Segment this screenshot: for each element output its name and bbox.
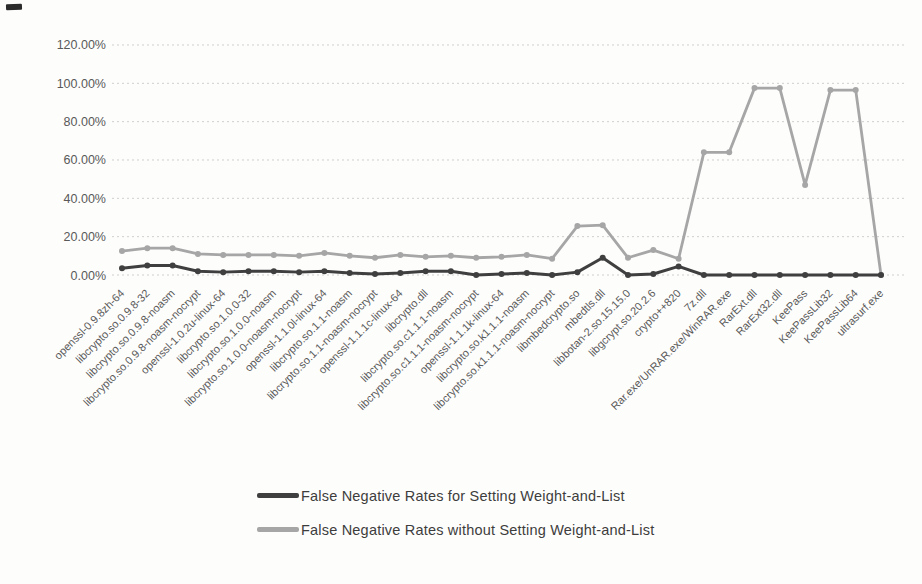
legend-item: False Negative Rates for Setting Weight-… — [257, 484, 654, 507]
data-point — [802, 272, 808, 278]
data-point — [574, 269, 580, 275]
data-point — [246, 252, 252, 258]
data-point — [119, 248, 125, 254]
data-point — [574, 223, 580, 229]
data-point — [625, 272, 631, 278]
data-point — [650, 247, 656, 253]
legend-label-without-weight-and-list: False Negative Rates without Setting Wei… — [301, 522, 654, 538]
data-point — [802, 182, 808, 188]
data-point — [473, 272, 479, 278]
data-point — [524, 252, 530, 258]
data-point — [777, 85, 783, 91]
data-point — [170, 245, 176, 251]
y-tick-label: 40.00% — [64, 192, 106, 206]
data-point — [499, 271, 505, 277]
data-point — [676, 256, 682, 262]
y-tick-label: 80.00% — [64, 115, 106, 129]
series-line-1 — [122, 88, 881, 275]
data-point — [827, 272, 833, 278]
data-point — [144, 245, 150, 251]
data-point — [600, 255, 606, 261]
data-point — [752, 272, 758, 278]
data-point — [119, 265, 125, 271]
data-point — [347, 270, 353, 276]
data-point — [397, 270, 403, 276]
data-point — [423, 268, 429, 274]
data-point — [220, 269, 226, 275]
data-point — [271, 252, 277, 258]
data-point — [347, 253, 353, 259]
data-point — [372, 271, 378, 277]
data-point — [144, 262, 150, 268]
y-tick-label: 60.00% — [64, 153, 106, 167]
data-point — [524, 270, 530, 276]
y-tick-label: 0.00% — [71, 269, 106, 283]
data-point — [372, 255, 378, 261]
data-point — [827, 87, 833, 93]
data-point — [853, 87, 859, 93]
data-point — [195, 268, 201, 274]
data-point — [726, 149, 732, 155]
data-point — [625, 255, 631, 261]
data-point — [220, 252, 226, 258]
data-point — [397, 252, 403, 258]
data-point — [701, 149, 707, 155]
data-point — [296, 253, 302, 259]
data-point — [448, 268, 454, 274]
data-point — [195, 251, 201, 257]
chart-legend: False Negative Rates for Setting Weight-… — [257, 484, 654, 552]
data-point — [473, 255, 479, 261]
data-point — [321, 250, 327, 256]
data-point — [726, 272, 732, 278]
data-point — [701, 272, 707, 278]
data-point — [296, 269, 302, 275]
data-point — [549, 256, 555, 262]
data-point — [499, 254, 505, 260]
data-point — [549, 272, 555, 278]
data-point — [246, 268, 252, 274]
legend-item: False Negative Rates without Setting Wei… — [257, 518, 654, 541]
legend-swatch-with-weight-and-list — [257, 493, 299, 498]
data-point — [777, 272, 783, 278]
data-point — [853, 272, 859, 278]
data-point — [271, 268, 277, 274]
data-point — [321, 268, 327, 274]
data-point — [676, 263, 682, 269]
legend-label-with-weight-and-list: False Negative Rates for Setting Weight-… — [301, 488, 625, 504]
y-tick-label: 100.00% — [57, 77, 106, 91]
data-point — [170, 262, 176, 268]
fnr-line-chart: 120.00%100.00%80.00%60.00%40.00%20.00%0.… — [0, 0, 922, 470]
y-tick-label: 20.00% — [64, 230, 106, 244]
y-tick-label: 120.00% — [57, 38, 106, 52]
data-point — [752, 85, 758, 91]
data-point — [600, 222, 606, 228]
data-point — [448, 253, 454, 259]
data-point — [650, 271, 656, 277]
legend-swatch-without-weight-and-list — [257, 527, 299, 532]
data-point — [423, 254, 429, 260]
data-point — [878, 272, 884, 278]
